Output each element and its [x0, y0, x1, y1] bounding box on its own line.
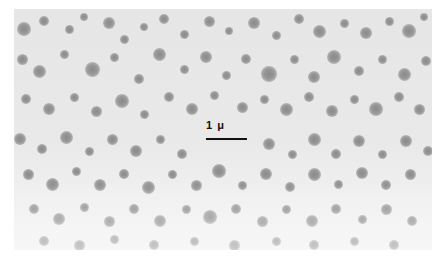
particle [159, 14, 169, 24]
particle [85, 147, 94, 156]
particle [360, 27, 372, 39]
particle [353, 135, 365, 147]
particle [288, 150, 297, 159]
particle [17, 22, 31, 36]
particle [140, 23, 148, 31]
particle [313, 25, 326, 38]
particle [210, 91, 219, 100]
particle [180, 30, 189, 39]
particle [237, 102, 248, 113]
particle [17, 54, 28, 65]
particle [21, 94, 31, 104]
particle [65, 25, 74, 34]
particle [43, 103, 55, 115]
particle [354, 66, 364, 76]
scale-bar [206, 138, 247, 140]
particle [180, 65, 189, 74]
particle [423, 146, 432, 156]
particle [308, 71, 320, 83]
particle [356, 167, 368, 179]
particle [327, 50, 341, 64]
particle [308, 168, 321, 181]
particle [204, 16, 215, 27]
particle [261, 66, 277, 82]
particle [164, 92, 174, 102]
particle [85, 62, 100, 77]
particle [414, 104, 425, 115]
particle [134, 74, 144, 84]
particle [60, 131, 73, 144]
particle [340, 19, 349, 28]
particle [294, 14, 304, 24]
particle [369, 102, 383, 116]
particle [385, 17, 394, 26]
particle [186, 103, 198, 115]
particle [290, 55, 299, 64]
particle [304, 92, 314, 102]
particle [420, 13, 428, 21]
particle [60, 50, 69, 59]
particle [331, 149, 341, 159]
particle [400, 135, 412, 147]
particle [110, 53, 119, 62]
particle [140, 110, 149, 119]
particle [405, 169, 416, 180]
particle [130, 145, 142, 157]
particle [350, 95, 359, 104]
particle [103, 17, 115, 29]
particle [241, 54, 251, 64]
particle [153, 48, 166, 61]
particle [168, 170, 177, 179]
particle [115, 94, 129, 108]
particle [91, 106, 102, 117]
particle [378, 55, 387, 64]
particle [177, 149, 187, 159]
lower-fade [14, 180, 432, 250]
scale-bar-label: 1 μ [206, 119, 225, 131]
particle [72, 167, 81, 176]
particle [33, 65, 46, 78]
particle [120, 35, 129, 44]
particle [248, 17, 260, 29]
particle [263, 138, 275, 150]
particle [272, 31, 281, 40]
particle [308, 133, 321, 146]
particle [402, 24, 416, 38]
particle [280, 103, 293, 116]
particle [107, 134, 118, 145]
particle [225, 27, 233, 35]
particle [378, 150, 387, 159]
particle [156, 135, 165, 144]
particle [260, 168, 272, 180]
particle [421, 56, 431, 66]
particle [80, 13, 88, 21]
particle [23, 169, 34, 180]
particle [326, 105, 338, 117]
particle [14, 133, 26, 145]
particle [260, 95, 269, 104]
particle [222, 71, 231, 80]
particle [39, 16, 49, 26]
particle [212, 164, 226, 178]
particle [394, 92, 404, 102]
particle [119, 169, 129, 179]
particle [37, 144, 47, 154]
particle [200, 51, 212, 63]
particle [398, 68, 411, 81]
particle [70, 93, 79, 102]
